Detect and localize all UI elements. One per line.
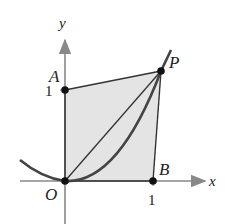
point-p-label: P [168, 53, 179, 72]
point-a-label: A [48, 67, 60, 86]
y-axis-label: y [57, 15, 66, 31]
point-b-label: B [159, 160, 170, 179]
diagram-canvas: y x 1 1 A P B O [0, 0, 233, 224]
point-b [149, 177, 157, 185]
point-p [157, 67, 165, 75]
point-o [61, 177, 69, 185]
point-a [61, 86, 69, 94]
point-o-label: O [45, 185, 57, 204]
x-axis-label: x [208, 173, 216, 189]
x-tick-label: 1 [148, 192, 156, 208]
